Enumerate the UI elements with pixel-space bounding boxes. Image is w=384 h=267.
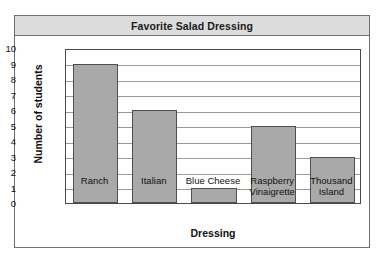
x-tick-label-line: Thousand — [302, 175, 361, 186]
y-tick-label: 6 — [0, 106, 16, 116]
y-tick-label: 4 — [0, 137, 16, 147]
x-tick-label: RaspberryVinaigrette — [243, 175, 302, 197]
x-tick-label-line: Island — [302, 186, 361, 197]
y-axis-label: Number of students — [32, 44, 44, 184]
x-tick-label-line: Raspberry — [243, 175, 302, 186]
x-tick-label-line: Blue Cheese — [183, 175, 242, 186]
y-tick-label: 3 — [0, 153, 16, 163]
y-tick-label: 2 — [0, 168, 16, 178]
bar[interactable] — [132, 110, 177, 203]
y-tick-label: 9 — [0, 60, 16, 70]
x-tick-label: Blue Cheese — [183, 175, 242, 186]
y-tick-label: 8 — [0, 75, 16, 85]
x-tick-label-line: Ranch — [65, 175, 124, 186]
chart-figure: Favorite Salad Dressing Number of studen… — [14, 15, 370, 248]
y-tick-label: 5 — [0, 122, 16, 132]
x-tick-label: Ranch — [65, 175, 124, 186]
y-tick-label: 1 — [0, 184, 16, 194]
x-tick-label-line: Italian — [124, 175, 183, 186]
chart-title: Favorite Salad Dressing — [131, 20, 253, 32]
bar[interactable] — [191, 188, 236, 204]
x-axis-label: Dressing — [65, 227, 361, 239]
y-tick-label: 7 — [0, 91, 16, 101]
chart-title-bar: Favorite Salad Dressing — [15, 16, 369, 36]
y-tick-label: 10 — [0, 44, 16, 54]
y-tick-label: 0 — [0, 199, 16, 209]
x-tick-label-line: Vinaigrette — [243, 186, 302, 197]
x-tick-label: ThousandIsland — [302, 175, 361, 197]
x-tick-label: Italian — [124, 175, 183, 186]
